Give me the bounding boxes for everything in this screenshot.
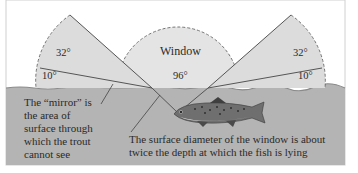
mirror-caption-line: cannot see (24, 148, 70, 160)
mirror-caption-line: which the trout (24, 135, 91, 147)
right-lower-angle-label: 10° (298, 70, 313, 81)
mirror-caption-line: surface through (24, 122, 93, 134)
window-caption: The surface diameter of the window is ab… (129, 133, 325, 158)
left-lower-angle-label: 10° (42, 70, 57, 81)
window-caption-line: The surface diameter of the window is ab… (129, 133, 325, 145)
mirror-caption-line: The “mirror” is (24, 96, 92, 108)
mirror-caption-line: the area of (24, 109, 71, 121)
trout-eye (179, 110, 182, 113)
window-caption-line: twice the depth at which the fish is lyi… (129, 146, 308, 158)
left-upper-angle-label: 32° (56, 47, 71, 58)
right-upper-angle-label: 32° (293, 47, 308, 58)
trout-window-diagram: 32° 10° 32° 10° Window 96° The “mirror” … (0, 0, 358, 173)
window-angle-label: 96° (173, 70, 188, 81)
window-label: Window (160, 44, 201, 58)
